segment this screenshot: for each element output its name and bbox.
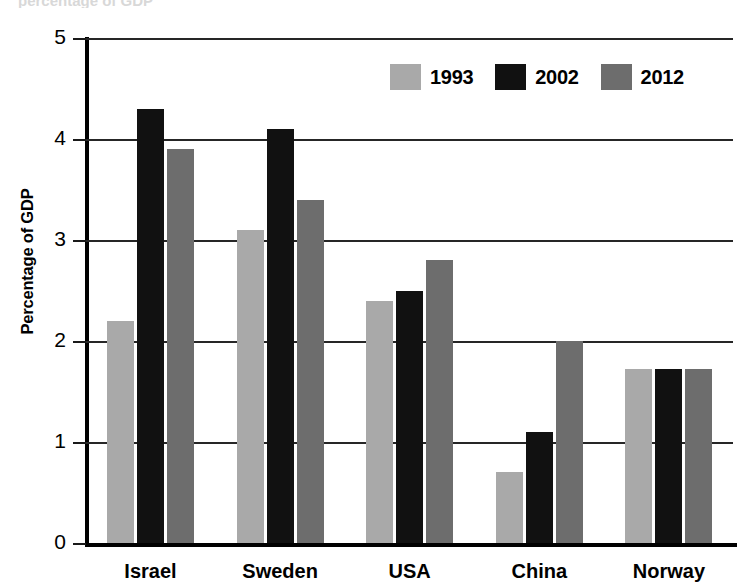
- bar-norway-2012: [685, 369, 712, 543]
- x-tick-label-israel: Israel: [81, 560, 221, 583]
- y-tick-mark: [73, 543, 86, 545]
- legend-label-2012: 2012: [641, 66, 684, 89]
- x-tick-label-usa: USA: [340, 560, 480, 583]
- legend-swatch-2012: [601, 64, 632, 90]
- x-tick-label-sweden: Sweden: [210, 560, 350, 583]
- bar-china-2012: [556, 341, 583, 543]
- legend-entry-1993: 1993: [390, 64, 473, 90]
- legend-swatch-1993: [390, 64, 421, 90]
- bar-norway-2002: [655, 369, 682, 543]
- x-tick-label-norway: Norway: [599, 560, 739, 583]
- legend-entry-2012: 2012: [601, 64, 684, 90]
- y-tick-label: 0: [36, 531, 66, 552]
- x-tick-label-china: China: [469, 560, 609, 583]
- bar-china-1993: [496, 472, 523, 543]
- y-tick-label: 1: [36, 430, 66, 451]
- y-tick-label: 4: [36, 127, 66, 148]
- bar-usa-1993: [366, 301, 393, 543]
- bar-israel-1993: [107, 321, 134, 543]
- bar-sweden-2012: [297, 200, 324, 543]
- bar-sweden-1993: [237, 230, 264, 543]
- y-tick-label: 2: [36, 329, 66, 350]
- y-tick-label: 5: [36, 26, 66, 47]
- clipped-header-text: percentage of GDP: [18, 0, 418, 8]
- legend-swatch-2002: [495, 64, 526, 90]
- bar-china-2002: [526, 432, 553, 543]
- bar-israel-2002: [137, 109, 164, 543]
- plot-area: [85, 38, 733, 543]
- bar-usa-2012: [426, 260, 453, 543]
- bar-israel-2012: [167, 149, 194, 543]
- legend-entry-2002: 2002: [495, 64, 578, 90]
- legend-label-2002: 2002: [535, 66, 578, 89]
- y-tick-label: 3: [36, 228, 66, 249]
- bar-chart-figure: percentage of GDP Percentage of GDP 0123…: [0, 0, 750, 588]
- bar-sweden-2002: [267, 129, 294, 543]
- bar-usa-2002: [396, 291, 423, 544]
- chart-legend: 199320022012: [390, 64, 684, 90]
- gridline: [85, 543, 737, 547]
- y-axis-title: Percentage of GDP: [18, 147, 37, 377]
- legend-label-1993: 1993: [430, 66, 473, 89]
- bar-norway-1993: [625, 369, 652, 543]
